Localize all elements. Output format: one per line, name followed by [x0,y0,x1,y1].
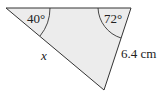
angle-label-top-left: 40° [27,11,45,26]
side-label-length: 6.4 cm [121,46,156,61]
side-label-x: x [40,48,47,63]
angle-label-top-right: 72° [104,11,122,26]
triangle-diagram: 40° 72° x 6.4 cm [0,0,165,91]
